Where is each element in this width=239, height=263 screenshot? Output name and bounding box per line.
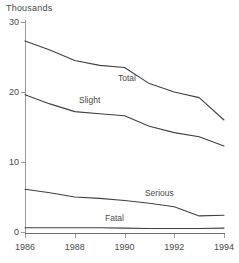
y-axis-ticks: 0102030 xyxy=(9,17,26,237)
y-tick-label: 30 xyxy=(9,17,19,27)
chart-plot-area: 0102030 19861988199019921994 TotalSlight… xyxy=(0,0,239,263)
x-tick-label: 1986 xyxy=(15,242,35,252)
x-tick-label: 1994 xyxy=(214,242,234,252)
series-line-fatal xyxy=(25,228,224,229)
y-tick-label: 20 xyxy=(9,87,19,97)
series-line-serious xyxy=(25,189,224,216)
line-chart: Thousands 0102030 19861988199019921994 T… xyxy=(0,0,239,263)
series-label-total: Total xyxy=(118,73,136,83)
y-tick-label: 0 xyxy=(14,227,19,237)
series-label-fatal: Fatal xyxy=(105,213,124,223)
y-tick-label: 10 xyxy=(9,157,19,167)
x-tick-label: 1988 xyxy=(65,242,85,252)
series-label-slight: Slight xyxy=(79,95,101,105)
series-label-serious: Serious xyxy=(145,188,174,198)
x-axis-ticks: 19861988199019921994 xyxy=(15,234,234,253)
series-lines xyxy=(25,41,224,229)
x-tick-label: 1990 xyxy=(114,242,134,252)
x-tick-label: 1992 xyxy=(164,242,184,252)
series-line-slight xyxy=(25,95,224,146)
